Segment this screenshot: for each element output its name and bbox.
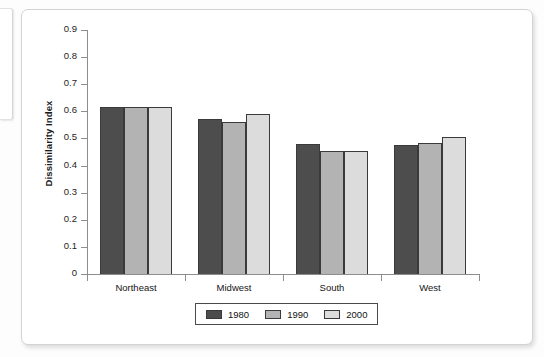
y-axis-tick-label: 0.2 <box>22 213 77 224</box>
bar-group <box>283 30 381 274</box>
y-axis-tick-label: 0.3 <box>22 186 77 197</box>
y-axis-tick-label: 0 <box>22 267 77 278</box>
legend-item: 2000 <box>324 309 367 320</box>
bar-group <box>185 30 283 274</box>
legend-item: 1980 <box>206 309 249 320</box>
x-axis-category-label: West <box>370 282 490 293</box>
bar <box>198 119 222 274</box>
y-axis-tick: 0 <box>22 274 87 275</box>
x-axis-tick-mark <box>479 275 480 281</box>
left-edge-panel <box>0 8 13 120</box>
bar <box>246 114 270 274</box>
y-axis-tick: 0.4 <box>22 166 87 167</box>
bar-group <box>381 30 479 274</box>
y-axis-tick-label: 0.1 <box>22 240 77 251</box>
bar <box>442 137 466 274</box>
bar <box>320 151 344 274</box>
y-axis-tick: 0.1 <box>22 247 87 248</box>
bar <box>394 145 418 274</box>
y-axis-tick-label: 0.9 <box>22 23 77 34</box>
y-axis-tick-label: 0.6 <box>22 104 77 115</box>
y-axis-tick: 0.2 <box>22 220 87 221</box>
bar <box>296 144 320 274</box>
legend-label: 1990 <box>287 309 308 320</box>
y-axis-tick: 0.8 <box>22 57 87 58</box>
x-axis-tick-mark <box>185 275 186 281</box>
y-axis-tick-label: 0.4 <box>22 159 77 170</box>
y-axis-tick: 0.9 <box>22 30 87 31</box>
bar-chart: Dissimilarity Index 0.90.80.70.60.50.40.… <box>22 10 534 346</box>
bar <box>100 107 124 274</box>
bar <box>148 107 172 274</box>
y-axis-tick: 0.6 <box>22 111 87 112</box>
legend-label: 1980 <box>228 309 249 320</box>
bar <box>418 143 442 274</box>
bar-group <box>87 30 185 274</box>
figure-card: Dissimilarity Index 0.90.80.70.60.50.40.… <box>21 9 533 345</box>
bar <box>344 151 368 274</box>
y-axis-tick: 0.3 <box>22 193 87 194</box>
x-axis-tick-mark <box>381 275 382 281</box>
y-axis-tick: 0.5 <box>22 138 87 139</box>
legend-swatch <box>206 310 222 319</box>
chart-legend: 198019902000 <box>195 303 378 325</box>
x-axis-tick-mark <box>283 275 284 281</box>
legend-swatch <box>265 310 281 319</box>
y-axis-tick-label: 0.5 <box>22 131 77 142</box>
y-axis-tick-label: 0.8 <box>22 50 77 61</box>
legend-label: 2000 <box>346 309 367 320</box>
legend-item: 1990 <box>265 309 308 320</box>
y-axis-tick: 0.7 <box>22 84 87 85</box>
y-axis-tick-label: 0.7 <box>22 77 77 88</box>
bar <box>222 122 246 274</box>
x-axis-tick-mark <box>87 275 88 281</box>
plot-area <box>87 30 479 274</box>
legend-swatch <box>324 310 340 319</box>
bar <box>124 107 148 274</box>
